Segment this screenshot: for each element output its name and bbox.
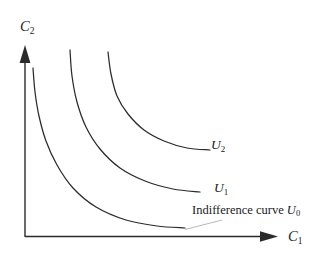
curve-label-u1-subscript: 1 bbox=[224, 187, 229, 197]
annotation-u0-main: U bbox=[287, 203, 296, 217]
x-axis-label: C1 bbox=[288, 229, 302, 246]
y-axis-label-subscript: 2 bbox=[30, 26, 35, 36]
indifference-curve-u0 bbox=[33, 68, 185, 228]
curve-label-u2: U2 bbox=[211, 138, 225, 154]
x-axis-arrowhead bbox=[260, 231, 278, 242]
curve-label-u1-main: U bbox=[214, 180, 224, 195]
annotation-prefix-text: Indifference curve bbox=[192, 203, 287, 217]
annotation-u0-subscript: 0 bbox=[296, 208, 300, 218]
x-axis-label-subscript: 1 bbox=[298, 236, 303, 246]
indifference-curve-u0-annotation: Indifference curve U0 bbox=[192, 204, 300, 218]
curve-label-u2-main: U bbox=[211, 137, 221, 152]
indifference-curve-u1 bbox=[70, 50, 200, 192]
indifference-curve-figure: C2 C1 U2 U1 Indifference curve U0 bbox=[0, 0, 323, 273]
figure-canvas bbox=[0, 0, 323, 273]
x-axis-label-main: C bbox=[288, 228, 298, 244]
y-axis-arrowhead bbox=[20, 45, 31, 63]
curve-label-u2-subscript: 2 bbox=[221, 144, 226, 154]
u0-leader-line bbox=[185, 220, 222, 230]
y-axis-label: C2 bbox=[20, 19, 34, 36]
y-axis-label-main: C bbox=[20, 18, 30, 34]
curve-label-u1: U1 bbox=[214, 181, 228, 197]
indifference-curve-u2 bbox=[108, 52, 210, 150]
